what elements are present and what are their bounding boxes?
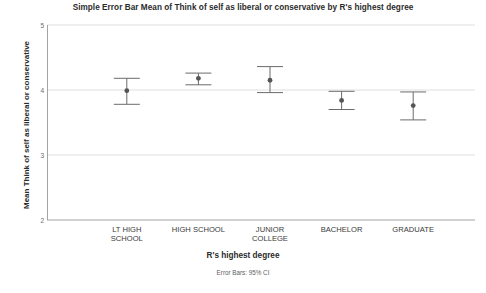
- y-tick-label-2: 2: [40, 217, 44, 224]
- x-tick-label: LT HIGH SCHOOL: [111, 226, 143, 243]
- y-axis-title-text: Mean Think of self as liberal or conserv…: [22, 41, 33, 209]
- mean-marker: [411, 103, 416, 108]
- error-bar-group: [185, 73, 211, 85]
- error-bar-chart: Simple Error Bar Mean of Think of self a…: [0, 0, 486, 293]
- error-bar-group: [400, 92, 426, 120]
- x-tick-label: HIGH SCHOOL: [172, 226, 225, 235]
- x-tick-label: JUNIOR COLLEGE: [252, 226, 288, 243]
- x-axis-title: R's highest degree: [0, 251, 486, 260]
- chart-title: Simple Error Bar Mean of Think of self a…: [0, 3, 486, 12]
- mean-marker: [268, 78, 273, 83]
- plot-area: 5432LT HIGH SCHOOLHIGH SCHOOLJUNIOR COLL…: [47, 25, 475, 220]
- error-bar-group: [257, 67, 283, 93]
- y-tick-label-4: 4: [40, 87, 44, 94]
- y-axis-title: Mean Think of self as liberal or conserv…: [14, 30, 40, 220]
- x-tick-label: GRADUATE: [392, 226, 434, 235]
- error-bar-group: [329, 91, 355, 109]
- mean-marker: [196, 76, 201, 81]
- error-bar-footnote: Error Bars: 95% CI: [0, 269, 486, 276]
- error-bar-group: [114, 78, 140, 104]
- mean-marker: [124, 88, 129, 93]
- mean-marker: [339, 98, 344, 103]
- plot-svg: [47, 25, 475, 220]
- x-tick-label: BACHELOR: [321, 226, 363, 235]
- y-tick-label-3: 3: [40, 152, 44, 159]
- y-tick-label-5: 5: [40, 22, 44, 29]
